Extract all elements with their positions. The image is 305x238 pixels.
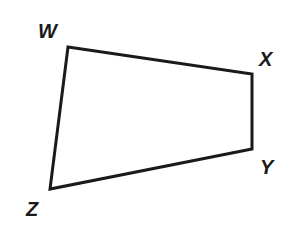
quadrilateral-wxyz [50, 47, 252, 189]
vertex-label-x: X [258, 48, 274, 70]
vertex-label-z: Z [25, 198, 39, 220]
vertex-label-w: W [38, 20, 59, 42]
quadrilateral-diagram: W X Y Z [0, 0, 305, 238]
vertex-label-y: Y [260, 156, 275, 178]
